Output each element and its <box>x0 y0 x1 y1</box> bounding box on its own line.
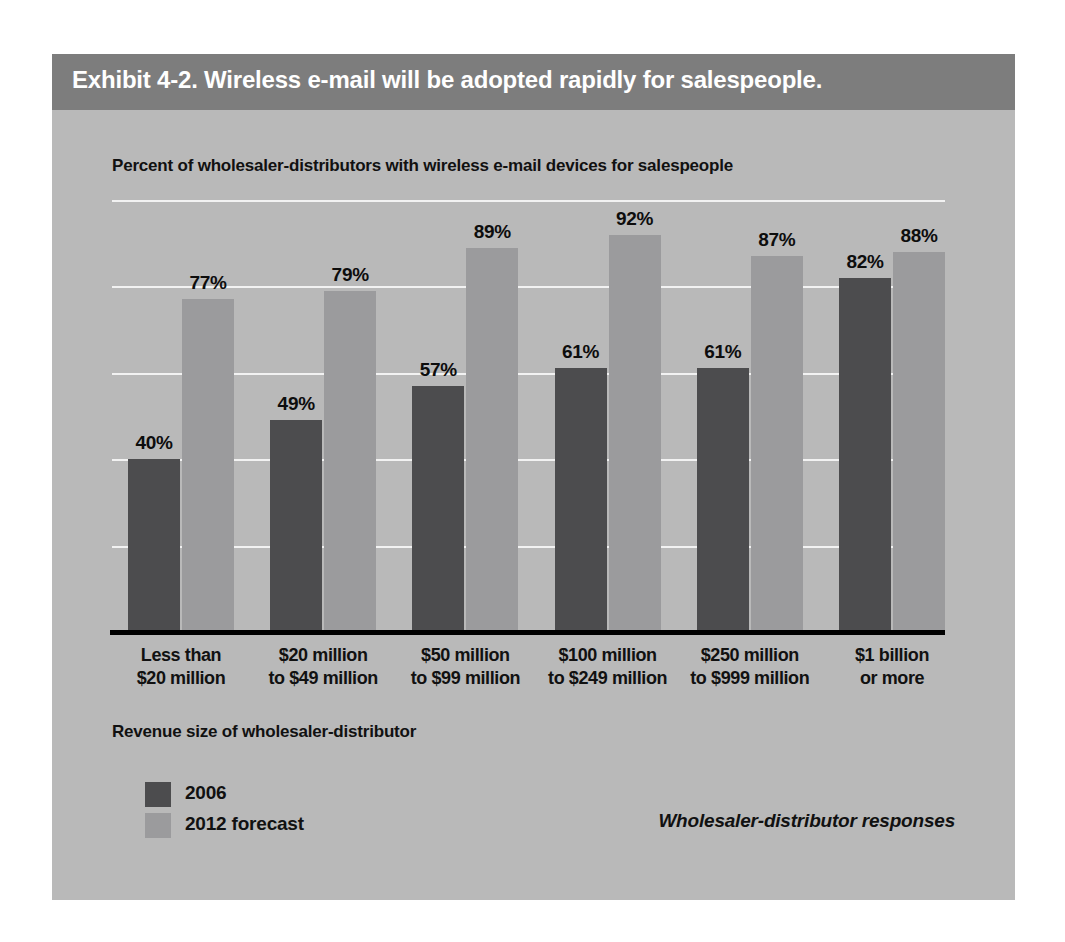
category-label-line: $250 million <box>669 644 831 667</box>
x-axis-title: Revenue size of wholesaler-distributor <box>112 722 416 742</box>
bar <box>324 291 376 632</box>
bar <box>893 252 945 632</box>
bar-value-label: 92% <box>595 208 675 230</box>
bar <box>270 420 322 632</box>
legend-label: 2012 forecast <box>185 813 304 835</box>
x-axis-category-label: $50 millionto $99 million <box>384 644 546 690</box>
x-axis-category-label: $250 millionto $999 million <box>669 644 831 690</box>
legend-swatch <box>145 782 171 807</box>
legend-label: 2006 <box>185 782 226 804</box>
category-label-line: to $49 million <box>242 667 404 690</box>
x-axis-category-label: $20 millionto $49 million <box>242 644 404 690</box>
category-label-line: to $99 million <box>384 667 546 690</box>
category-label-line: $100 million <box>527 644 689 667</box>
exhibit-panel: Exhibit 4-2. Wireless e-mail will be ado… <box>52 54 1015 900</box>
bar <box>697 368 749 632</box>
bar <box>751 256 803 632</box>
gridline <box>112 373 945 375</box>
bar <box>609 235 661 632</box>
exhibit-title-band: Exhibit 4-2. Wireless e-mail will be ado… <box>52 54 1015 110</box>
bar <box>182 299 234 632</box>
bar-value-label: 87% <box>737 229 817 251</box>
gridline <box>112 459 945 461</box>
bar <box>466 248 518 632</box>
bar <box>412 386 464 632</box>
bar-value-label: 79% <box>310 264 390 286</box>
exhibit-title: Exhibit 4-2. Wireless e-mail will be ado… <box>72 66 822 94</box>
category-label-line: to $249 million <box>527 667 689 690</box>
x-axis-line <box>110 630 945 635</box>
category-label-line: Less than <box>100 644 262 667</box>
bar-value-label: 89% <box>452 221 532 243</box>
category-label-line: $20 million <box>242 644 404 667</box>
source-note: Wholesaler-distributor responses <box>658 810 955 832</box>
category-label-line: $50 million <box>384 644 546 667</box>
x-axis-category-label: Less than$20 million <box>100 644 262 690</box>
x-axis-category-label: $1 billionor more <box>811 644 973 690</box>
bar <box>555 368 607 632</box>
x-axis-category-label: $100 millionto $249 million <box>527 644 689 690</box>
bar <box>839 278 891 632</box>
bar <box>128 459 180 632</box>
category-label-line: to $999 million <box>669 667 831 690</box>
category-label-line: $1 billion <box>811 644 973 667</box>
category-label-line: $20 million <box>100 667 262 690</box>
chart-subtitle: Percent of wholesaler-distributors with … <box>112 156 733 176</box>
bar-value-label: 77% <box>168 272 248 294</box>
bar-value-label: 88% <box>879 225 959 247</box>
category-label-line: or more <box>811 667 973 690</box>
chart-plot-area: 40%77%49%79%57%89%61%92%61%87%82%88% <box>112 200 945 632</box>
legend-swatch <box>145 813 171 838</box>
gridline <box>112 546 945 548</box>
gridline <box>112 200 945 202</box>
